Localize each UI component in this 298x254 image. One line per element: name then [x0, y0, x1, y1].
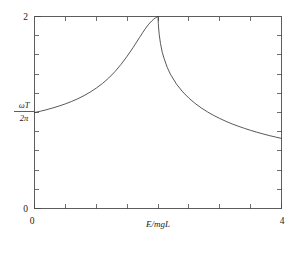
plot-frame	[35, 17, 282, 209]
y-axis-max-label: 2	[23, 12, 28, 22]
y-axis-title-denominator: 2π	[20, 113, 29, 123]
plot-border	[35, 17, 282, 209]
x-axis-title: E/mgL	[145, 219, 170, 229]
data-series-group	[35, 17, 282, 139]
x-axis-min-label: 0	[30, 216, 35, 226]
y-axis-min-label: 0	[23, 204, 28, 214]
y-axis-title: ωT 2π	[14, 100, 34, 123]
curve-libration-branch	[35, 17, 159, 113]
chart-figure: 0 4 0 2 E/mgL ωT 2π	[0, 0, 298, 254]
x-axis-ticks	[35, 203, 282, 209]
pendulum-period-chart: 0 4 0 2 E/mgL ωT 2π	[0, 0, 298, 254]
y-axis-right-ticks	[277, 36, 282, 190]
curve-rotation-branch	[158, 17, 282, 139]
y-axis-title-numerator: ωT	[19, 100, 31, 110]
x-axis-max-label: 4	[280, 216, 285, 226]
